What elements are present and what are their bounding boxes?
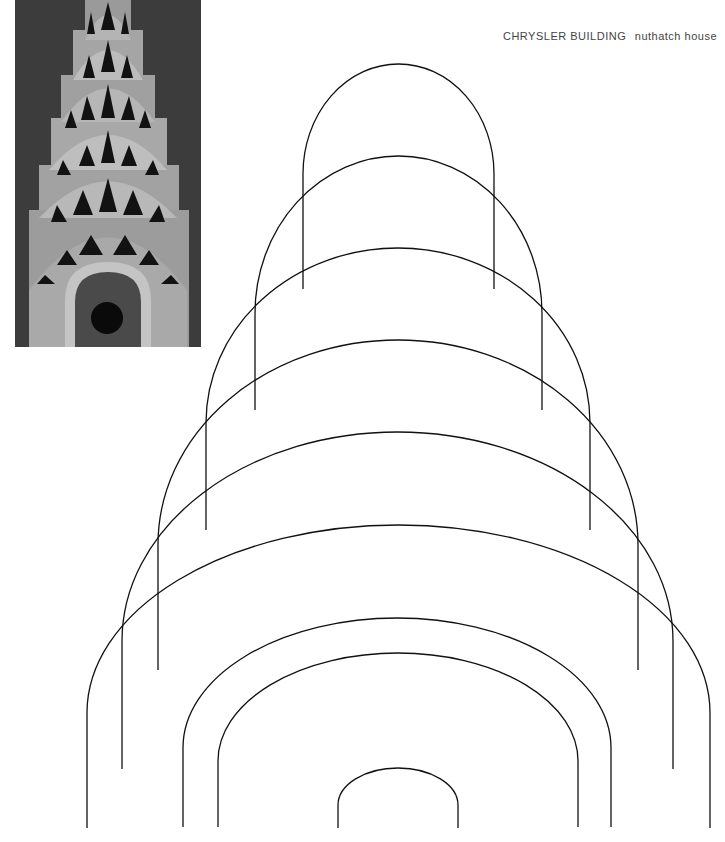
- arch-outline: [218, 653, 578, 827]
- arch-outline: [87, 525, 710, 828]
- arch-outline: [183, 618, 611, 827]
- arch-outline: [303, 64, 494, 289]
- arch-outline: [338, 768, 458, 828]
- nuthatch-house-arch-drawing: [0, 0, 725, 842]
- arch-outline: [255, 156, 542, 410]
- arch-outline: [206, 248, 590, 530]
- arch-outline: [158, 340, 638, 670]
